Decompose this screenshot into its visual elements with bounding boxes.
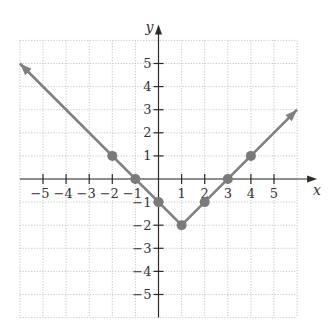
y-tick-label: 5 [143, 56, 151, 71]
x-tick-label: −2 [100, 186, 119, 201]
data-point [130, 174, 140, 184]
y-axis-label: y [145, 19, 155, 35]
data-point [200, 197, 210, 207]
data-point [154, 197, 164, 207]
graph: x y −5−4−3−2−11234554321−1−2−3−4−5 [0, 0, 331, 333]
y-axis-arrow-icon [155, 24, 162, 34]
x-tick-label: 5 [270, 186, 278, 201]
x-tick-label: −4 [54, 186, 73, 201]
y-tick-label: −4 [132, 264, 151, 279]
y-tick-label: −5 [132, 287, 151, 302]
x-tick-label: 3 [224, 186, 232, 201]
axes: x y [20, 19, 321, 317]
y-tick-label: −1 [132, 195, 151, 210]
x-tick-label: −5 [30, 186, 49, 201]
x-axis-label: x [313, 182, 321, 198]
y-tick-label: 2 [143, 125, 151, 140]
x-tick-label: −3 [77, 186, 96, 201]
x-tick-label: 4 [247, 186, 255, 201]
y-tick-label: 1 [143, 148, 151, 163]
y-tick-label: −2 [132, 218, 151, 233]
y-tick-label: −3 [132, 241, 151, 256]
data-point [177, 220, 187, 230]
data-point [223, 174, 233, 184]
x-tick-label: 1 [177, 186, 185, 201]
data-point [246, 151, 256, 161]
data-point [107, 151, 117, 161]
y-tick-label: 4 [143, 79, 151, 94]
y-tick-label: 3 [143, 102, 151, 117]
